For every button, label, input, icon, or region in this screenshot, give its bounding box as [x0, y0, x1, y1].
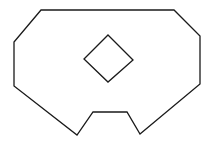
diagram-canvas [0, 0, 214, 148]
outer-polygon [14, 10, 200, 135]
diagram-svg [0, 0, 214, 148]
inner-diamond [84, 35, 133, 82]
